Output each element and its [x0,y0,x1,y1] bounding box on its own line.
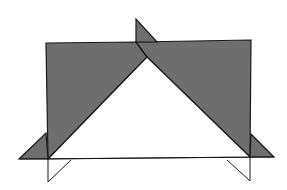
left-support [48,159,71,182]
diagram-canvas [0,0,287,190]
top-flap [136,19,157,42]
right-flap [250,134,274,157]
left-flap [19,133,48,159]
geometric-diagram [0,0,287,190]
right-support [227,158,250,181]
